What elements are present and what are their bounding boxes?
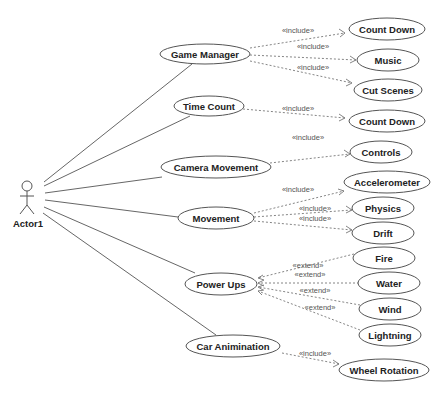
actor-actor1[interactable]: Actor1 [13,181,44,229]
use-case-water[interactable]: Water [358,272,420,294]
stereotype-label: «include» [282,185,314,194]
use-case-label: Water [376,278,402,289]
stereotype-label: «include» [297,63,329,72]
use-case-controls[interactable]: Controls [350,141,412,163]
use-case-label: Car Animination [196,341,269,352]
use-case-physics[interactable]: Physics [352,197,414,219]
use-case-diagram: «include» «include» «include» «include» … [0,0,448,400]
stereotype-label: «include» [292,133,324,142]
use-case-label: Game Manager [171,49,239,60]
use-case-label: Controls [361,147,400,158]
use-case-power-ups[interactable]: Power Ups [185,273,257,295]
stereotype-label: «include» [299,204,331,213]
use-case-camera-movement[interactable]: Camera Movement [161,156,271,178]
stereotype-label: «include» [299,214,331,223]
actor-label: Actor1 [13,218,44,229]
use-case-car-animination[interactable]: Car Animination [186,335,280,357]
use-case-label: Time Count [183,101,236,112]
use-case-time-count[interactable]: Time Count [174,96,244,116]
stereotype-label: «include» [282,26,314,35]
association-power-ups [44,207,195,273]
use-case-label: Fire [375,253,392,264]
use-case-fire[interactable]: Fire [353,247,415,269]
use-case-music[interactable]: Music [357,49,419,71]
use-case-label: Count Down [359,24,415,35]
actor-head-icon [22,181,32,191]
use-case-wind[interactable]: Wind [359,298,421,320]
use-case-label: Count Down [359,116,415,127]
association-camera-movement [45,177,162,193]
use-case-label: Wind [378,304,401,315]
dependencies: «include» «include» «include» «include» … [243,26,360,367]
use-case-cut-scenes[interactable]: Cut Scenes [354,79,422,101]
use-case-label: Movement [193,213,241,224]
use-case-label: Power Ups [196,279,245,290]
use-case-lightning[interactable]: Lightning [359,324,421,346]
use-case-label: Cut Scenes [362,85,414,96]
use-case-count-down-2[interactable]: Count Down [349,110,425,132]
use-case-label: Camera Movement [174,162,259,173]
association-car-animination [43,213,216,335]
association-movement [45,200,178,217]
stereotype-label: «extend» [300,286,331,295]
stereotype-label: «extend» [305,303,336,312]
stereotype-label: «extend» [295,270,326,279]
use-case-game-manager[interactable]: Game Manager [160,44,250,64]
use-case-wheel-rotation[interactable]: Wheel Rotation [339,359,429,381]
stereotype-label: «extend» [293,261,324,270]
association-time-count [44,116,190,186]
stereotype-label: «include» [297,42,329,51]
stereotype-label: «include» [282,104,314,113]
use-case-accelerometer[interactable]: Accelerometer [344,171,430,193]
use-case-label: Lightning [368,330,411,341]
use-case-movement[interactable]: Movement [178,207,254,229]
use-case-count-down-1[interactable]: Count Down [349,18,425,40]
use-case-label: Accelerometer [354,177,420,188]
use-case-label: Music [375,55,402,66]
use-case-label: Drift [373,228,393,239]
use-case-label: Physics [365,203,401,214]
use-case-drift[interactable]: Drift [352,222,414,244]
stereotype-label: «include» [299,349,331,358]
use-case-label: Wheel Rotation [349,365,418,376]
